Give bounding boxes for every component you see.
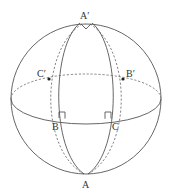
sphere-diagram: A′ A B C C′ B′ — [0, 0, 172, 195]
point-b-prime — [121, 77, 124, 80]
label-c-prime: C′ — [37, 68, 46, 79]
meridian-back-left — [51, 24, 84, 174]
label-c: C — [112, 121, 119, 132]
right-angle-marker-c — [105, 112, 111, 119]
equator-front — [11, 99, 161, 124]
angle-marker-a-prime — [81, 24, 91, 29]
label-a-prime: A′ — [80, 10, 89, 21]
label-a: A — [82, 179, 90, 190]
meridian-back-right — [88, 24, 121, 174]
sphere-outline — [11, 24, 161, 174]
label-b: B — [52, 121, 59, 132]
equator-back — [11, 74, 161, 99]
label-b-prime: B′ — [126, 68, 135, 79]
point-c-prime — [47, 77, 50, 80]
